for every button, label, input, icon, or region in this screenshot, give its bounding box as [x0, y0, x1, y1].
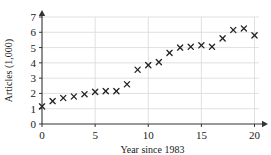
- x-tick-label: 15: [196, 129, 208, 141]
- x-tick-label: 5: [92, 129, 98, 141]
- y-tick-label: 1: [31, 103, 37, 115]
- y-tick-label: 6: [31, 26, 37, 38]
- x-axis-title: Year since 1983: [121, 144, 185, 155]
- y-axis-title: Articles (1,000): [3, 39, 15, 102]
- x-tick-label: 10: [143, 129, 155, 141]
- x-tick-label: 20: [249, 129, 261, 141]
- y-tick-label: 0: [31, 118, 37, 130]
- y-tick-label: 3: [31, 72, 37, 84]
- y-tick-label: 7: [31, 11, 37, 23]
- chart-figure: 01234567 05101520 Year since 1983 Articl…: [0, 0, 271, 155]
- y-tick-label: 2: [31, 87, 37, 99]
- x-tick-label: 0: [39, 129, 45, 141]
- scatter-plot: 01234567 05101520 Year since 1983 Articl…: [0, 0, 271, 155]
- y-tick-label: 5: [31, 42, 37, 54]
- y-tick-label: 4: [31, 57, 37, 69]
